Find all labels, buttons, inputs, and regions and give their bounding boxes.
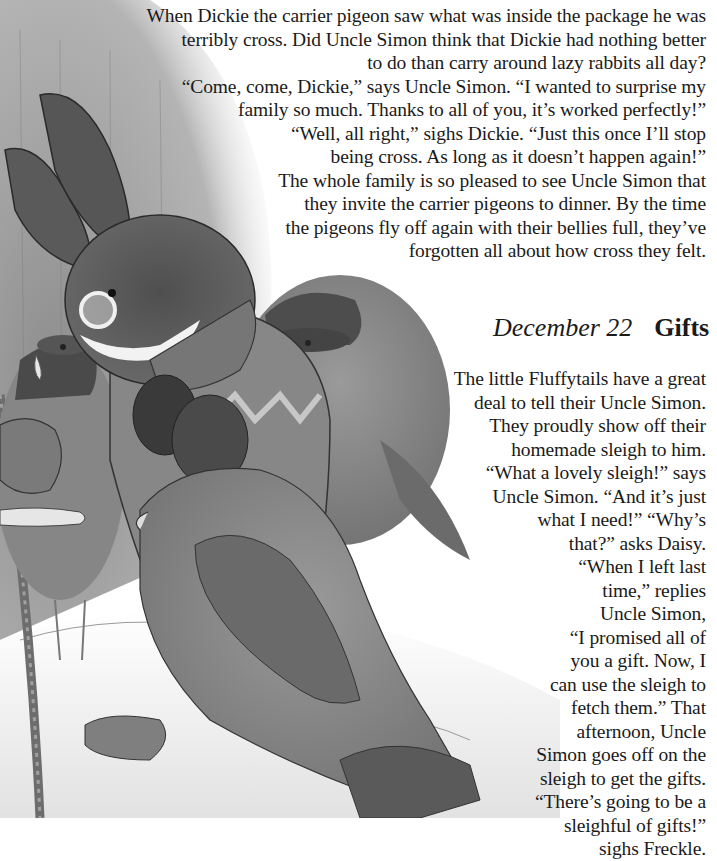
story-line: afternoon, Uncle — [454, 720, 706, 744]
story-line: Uncle Simon. “And it’s just — [454, 485, 706, 509]
story-line: the pigeons fly off again with their bel… — [147, 216, 706, 240]
story-line: Uncle Simon, — [454, 602, 706, 626]
rabbit-glasses — [81, 293, 115, 327]
story-heading: December 22Gifts — [493, 313, 709, 343]
story-line: deal to tell their Uncle Simon. — [454, 391, 706, 415]
story-line: sleighful of gifts!” — [454, 814, 706, 838]
story-line: “I promised all of — [454, 626, 706, 650]
story-line: homemade sleigh to him. — [454, 438, 706, 462]
story-line: they invite the carrier pigeons to dinne… — [147, 192, 706, 216]
story-line: “Come, come, Dickie,” says Uncle Simon. … — [147, 75, 706, 99]
story-line: forgotten all about how cross they felt. — [147, 239, 706, 263]
story-line: that?” asks Daisy. — [454, 532, 706, 556]
story-line: “There’s going to be a — [454, 790, 706, 814]
story-line: The little Fluffytails have a great — [454, 367, 706, 391]
heading-date: December 22 — [493, 313, 632, 342]
story-line: sighs Freckle. — [454, 837, 706, 861]
story-line: you a gift. Now, I — [454, 649, 706, 673]
heading-title: Gifts — [654, 313, 709, 342]
story-line: “When I left last — [454, 555, 706, 579]
story-line: “Well, all right,” sighs Dickie. “Just t… — [147, 122, 706, 146]
story-line: fetch them.” That — [454, 696, 706, 720]
rabbit-mitten-left — [0, 419, 61, 494]
story-line: time,” replies — [454, 579, 706, 603]
story-top-text: When Dickie the carrier pigeon saw what … — [147, 4, 706, 263]
story-line: what I need!” “Why’s — [454, 508, 706, 532]
story-line: They proudly show off their — [454, 414, 706, 438]
story-line: Simon goes off on the — [454, 743, 706, 767]
story-line: to do than carry around lazy rabbits all… — [147, 51, 706, 75]
story-line: sleigh to get the gifts. — [454, 767, 706, 791]
story-line: When Dickie the carrier pigeon saw what … — [147, 4, 706, 28]
story-line: The whole family is so pleased to see Un… — [147, 169, 706, 193]
story-line: can use the sleigh to — [454, 673, 706, 697]
story-bottom-text: The little Fluffytails have a great deal… — [454, 367, 706, 861]
story-line: “What a lovely sleigh!” says — [454, 461, 706, 485]
story-line: being cross. As long as it doesn’t happe… — [147, 145, 706, 169]
story-line: terribly cross. Did Uncle Simon think th… — [147, 28, 706, 52]
story-line: family so much. Thanks to all of you, it… — [147, 98, 706, 122]
